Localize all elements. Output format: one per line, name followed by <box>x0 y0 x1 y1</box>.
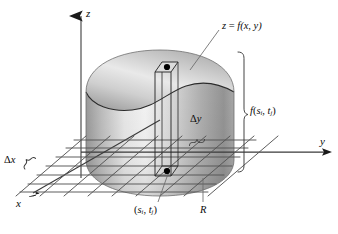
partition-grid <box>16 136 278 196</box>
surface-equation-label: z = f(x, y) <box>222 21 262 32</box>
grid-lines-horizontal <box>20 140 256 192</box>
delta-x-variable: x <box>11 154 16 165</box>
z-axis-label: z <box>86 8 90 19</box>
height-brace <box>238 52 248 172</box>
delta-x-brace <box>21 154 36 169</box>
delta-y-variable: y <box>197 113 202 124</box>
region-label: R <box>200 205 206 216</box>
surface-equation-equals: = <box>226 20 237 31</box>
delta-y-symbol: Δ <box>190 113 197 124</box>
delta-x-symbol: Δ <box>4 154 11 165</box>
surface-equation-args: (x, y) <box>240 20 262 31</box>
sample-point-label: (si, tj) <box>134 205 157 216</box>
delta-x-label: Δx <box>4 155 15 166</box>
y-axis-label: y <box>320 136 325 147</box>
sample-point-close-paren: ) <box>153 204 157 215</box>
sample-point-top-dot <box>164 64 170 70</box>
height-close-paren: ) <box>272 105 276 116</box>
column-height-label: f(si, tj) <box>250 106 276 117</box>
figure-root: z y x z = f(x, y) f(si, tj) Δy Δx (si, t… <box>0 0 338 234</box>
sample-point-base-dot <box>164 168 170 174</box>
x-axis-label: x <box>16 198 21 209</box>
figure-canvas <box>0 0 338 234</box>
delta-y-label: Δy <box>190 114 201 125</box>
